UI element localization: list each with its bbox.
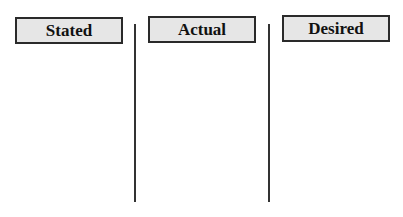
cropped-title-fragment [198,0,206,2]
column-header-label: Stated [46,21,92,41]
column-divider [134,24,136,202]
column-header-stated: Stated [15,17,123,44]
column-divider [268,24,270,202]
column-header-desired: Desired [282,15,390,42]
column-header-actual: Actual [148,16,256,43]
column-header-label: Desired [308,19,363,39]
column-header-label: Actual [178,20,226,40]
